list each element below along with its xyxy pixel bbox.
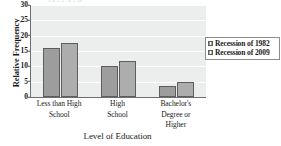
bar-group	[148, 5, 206, 97]
legend-item: Recession of 1982	[208, 39, 278, 48]
y-axis-tick-label: 10	[13, 63, 28, 71]
y-axis-tick-label: 25	[13, 17, 28, 25]
bar	[119, 61, 136, 97]
x-axis-title: Level of Education	[30, 131, 205, 141]
clipped-title-text: ypyy pyg	[48, 0, 82, 2]
x-axis-category-label: Less than HighSchool	[30, 99, 88, 120]
x-axis-category-label: Bachelor'sDegree orHigher	[147, 99, 205, 131]
y-axis-tick-label: 20	[13, 32, 28, 40]
plot-area	[30, 5, 206, 98]
bar	[61, 43, 78, 97]
y-axis-tick-label: 5	[13, 78, 28, 86]
y-axis-tick-label: 15	[13, 47, 28, 55]
y-axis-tick-label: 30	[13, 1, 28, 9]
legend-item: Recession of 2009	[208, 48, 278, 57]
legend-item-label: Recession of 2009	[215, 48, 270, 57]
bar	[101, 66, 118, 97]
bar-group	[31, 5, 89, 97]
bars-layer	[31, 5, 206, 97]
y-axis-tick-labels: 051015202530	[13, 5, 28, 97]
clipped-title-remnant: ypyy pyg	[48, 0, 158, 3]
bar	[159, 86, 176, 97]
legend-swatch-icon	[208, 41, 213, 46]
x-axis-category-label: HighSchool	[88, 99, 146, 120]
bar-group	[89, 5, 147, 97]
chart-legend: Recession of 1982Recession of 2009	[205, 37, 280, 60]
bar	[43, 48, 60, 97]
bar	[177, 82, 194, 97]
y-axis-tick-label: 0	[13, 93, 28, 101]
legend-item-label: Recession of 1982	[215, 39, 270, 48]
grouped-bar-chart: ypyy pyg Relative Frequency 051015202530…	[0, 0, 281, 146]
legend-swatch-icon	[208, 50, 213, 55]
